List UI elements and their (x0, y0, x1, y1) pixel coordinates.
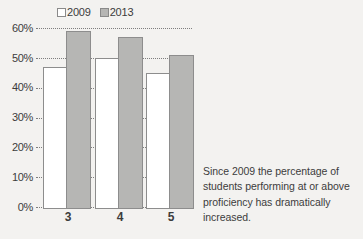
x-tick-4: 4 (98, 211, 142, 223)
plot-area: 3 4 5 (36, 26, 192, 209)
bar-2013-grade-3[interactable] (66, 31, 91, 209)
legend-entry-2013: 2013 (100, 7, 134, 18)
caption-text: Since 2009 the percentage of students pe… (203, 164, 361, 226)
y-tick-10: 10% (12, 172, 33, 183)
bar-2009-grade-3[interactable] (43, 67, 67, 209)
bar-2009-grade-5[interactable] (146, 73, 170, 209)
y-tick-30: 30% (12, 112, 33, 123)
y-tick-60: 60% (12, 23, 33, 34)
legend-swatch-2009-icon (57, 8, 66, 17)
legend-label-2013: 2013 (110, 7, 134, 18)
legend-entry-2009: 2009 (57, 7, 91, 18)
legend-label-2009: 2009 (67, 7, 91, 18)
y-tick-0: 0% (18, 202, 33, 213)
bar-group-3 (43, 28, 93, 209)
bar-chart: 2009 2013 60% 50% 40% 30% 20% 10% 0% (0, 0, 200, 230)
y-tick-50: 50% (12, 53, 33, 64)
bar-group-4 (95, 28, 145, 209)
y-axis: 60% 50% 40% 30% 20% 10% 0% (0, 0, 36, 215)
y-tick-40: 40% (12, 82, 33, 93)
bar-2009-grade-4[interactable] (95, 58, 119, 209)
bar-2013-grade-4[interactable] (118, 37, 143, 209)
bar-group-5 (146, 28, 196, 209)
x-tick-5: 5 (149, 211, 193, 223)
page-root: 2009 2013 60% 50% 40% 30% 20% 10% 0% (0, 0, 363, 239)
legend-swatch-2013-icon (100, 8, 109, 17)
x-tick-3: 3 (46, 211, 90, 223)
y-tick-20: 20% (12, 142, 33, 153)
bar-2013-grade-5[interactable] (169, 55, 194, 209)
chart-legend: 2009 2013 (57, 5, 133, 19)
